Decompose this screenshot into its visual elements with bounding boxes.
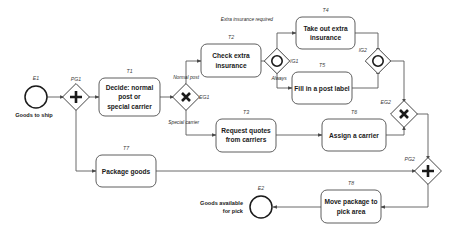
- bpmn-diagram-canvas: E1 Goods to ship E2 Goods available for …: [0, 0, 457, 233]
- flow-ig2-eg2: [387, 61, 404, 103]
- task-t1[interactable]: T1 Decide: normal post or special carrie…: [99, 68, 160, 116]
- gateway-pg1-id: PG1: [71, 76, 81, 82]
- task-t5-label-line1: Fill in a post label: [294, 85, 349, 93]
- flow-pg1-t7: [76, 109, 96, 171]
- flow-t6-eg2: [386, 126, 404, 135]
- event-e2-id: E2: [258, 185, 264, 191]
- task-t7-id: T7: [123, 145, 130, 151]
- flow-label-always: Always: [270, 76, 287, 81]
- flow-label-special-carrier: Special carrier: [168, 120, 199, 125]
- event-e2-label-line2: for pick: [223, 208, 244, 214]
- task-t1-label-line1: Decide: normal: [106, 84, 154, 91]
- event-e2-label-line1: Goods available: [200, 200, 243, 206]
- flow-label-normal-post: Normal post: [173, 75, 200, 80]
- task-t6-label-line1: Assign a carrier: [329, 132, 379, 140]
- event-e1[interactable]: E1 Goods to ship: [15, 75, 53, 118]
- task-t8-id: T8: [348, 180, 354, 186]
- gateway-pg1[interactable]: PG1: [63, 76, 90, 110]
- task-t3-id: T3: [243, 109, 249, 115]
- flow-eg1-t2: [186, 61, 201, 86]
- task-t4-label-line2: insurance: [310, 34, 341, 41]
- task-t5-id: T5: [319, 62, 325, 68]
- task-t2-label-line2: insurance: [215, 62, 246, 69]
- gateway-ig2-id: IG2: [359, 47, 367, 53]
- event-e1-id: E1: [33, 75, 39, 81]
- gateway-ig2[interactable]: IG2: [359, 47, 391, 74]
- task-t4[interactable]: T4 Take out extra insurance: [296, 7, 355, 49]
- task-t2-label-line1: Check extra: [212, 52, 250, 59]
- task-t6[interactable]: T6 Assign a carrier: [322, 109, 386, 151]
- gateway-ig1[interactable]: IG1: [264, 48, 298, 73]
- task-t3-label-line2: from carriers: [226, 136, 267, 143]
- task-t1-label-line2: post or: [118, 93, 141, 101]
- task-t7-label-line1: Package goods: [102, 168, 151, 176]
- event-e2[interactable]: E2 Goods available for pick: [200, 185, 272, 218]
- task-t2-id: T2: [228, 34, 234, 40]
- gateway-eg2-id: EG2: [381, 99, 391, 105]
- task-t1-label-line3: special carrier: [107, 103, 152, 111]
- gateway-eg1-id: EG1: [199, 94, 209, 100]
- flow-ig1-t4: [277, 33, 296, 52]
- task-t7[interactable]: T7 Package goods: [96, 145, 156, 187]
- gateway-pg2[interactable]: PG2: [405, 156, 442, 184]
- task-t8-label-line1: Move package to: [324, 198, 377, 206]
- task-t1-id: T1: [126, 68, 132, 74]
- gateway-ig1-id: IG1: [290, 58, 298, 64]
- flow-eg2-pg2: [416, 114, 428, 160]
- task-t4-id: T4: [322, 7, 328, 13]
- task-t8[interactable]: T8 Move package to pick area: [321, 180, 381, 223]
- gateway-eg1[interactable]: EG1: [173, 84, 210, 111]
- flow-pg2-t8: [381, 183, 428, 207]
- event-e1-label: Goods to ship: [15, 112, 53, 118]
- task-t8-label-line2: pick area: [337, 208, 366, 216]
- gateway-pg2-id: PG2: [405, 156, 415, 162]
- task-t2[interactable]: T2 Check extra insurance: [201, 34, 261, 77]
- task-t4-label-line1: Take out extra: [303, 25, 348, 32]
- flow-t5-ig2: [352, 70, 378, 88]
- task-t3-label-line1: Request quotes: [221, 127, 271, 135]
- task-t5[interactable]: T5 Fill in a post label: [292, 62, 352, 104]
- flow-label-extra-insurance-required: Extra insurance required: [221, 17, 274, 22]
- task-t6-id: T6: [351, 109, 357, 115]
- task-t3[interactable]: T3 Request quotes from carriers: [216, 109, 276, 152]
